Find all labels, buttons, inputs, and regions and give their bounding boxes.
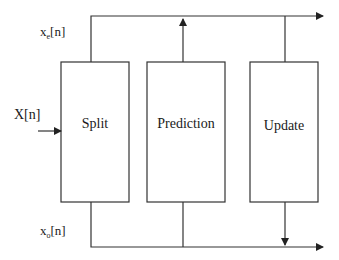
- odd-path-line: [91, 202, 323, 247]
- update-label: Update: [264, 118, 304, 133]
- split-block: [61, 62, 129, 202]
- input-signal-label: X[n]: [14, 107, 40, 122]
- prediction-block: [147, 62, 225, 202]
- odd-signal-label: xo[n]: [40, 223, 66, 240]
- prediction-label: Prediction: [157, 116, 215, 131]
- even-signal-label: xe[n]: [40, 24, 65, 41]
- lifting-scheme-diagram: Split Prediction Update X[n] xe[n] xo[n]: [0, 0, 339, 260]
- split-label: Split: [82, 116, 109, 131]
- even-path-line: [91, 16, 323, 62]
